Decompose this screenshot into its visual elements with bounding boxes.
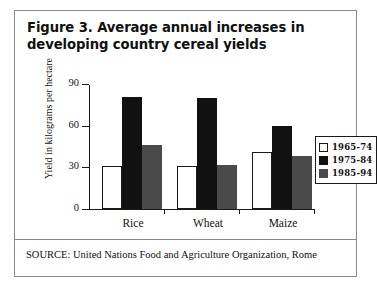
bar-group-maize: Maize [252, 84, 314, 209]
x-category-label-maize: Maize [243, 217, 323, 229]
y-tick-90: 90 [82, 84, 89, 85]
legend-label-1965-74: 1965-74 [332, 142, 372, 152]
bar-maize-1965-74 [252, 152, 272, 209]
y-axis-title: Yield in kilograms per hectare [43, 54, 54, 184]
source-note: SOURCE: United Nations Food and Agricult… [26, 249, 317, 260]
x-axis-line [89, 209, 315, 210]
x-tick-3 [314, 210, 315, 214]
legend-item-1985-94: 1985-94 [319, 167, 372, 179]
source-divider [15, 239, 356, 240]
x-category-label-wheat: Wheat [168, 217, 248, 229]
legend-label-1975-84: 1975-84 [332, 155, 372, 165]
bar-maize-1975-84 [272, 126, 292, 209]
bar-rice-1985-94 [142, 145, 162, 209]
bar-wheat-1985-94 [217, 165, 237, 209]
y-tick-label-30: 30 [69, 160, 80, 171]
figure-title-line-2: developing country cereal yields [27, 36, 327, 53]
chart-plot-region: Yield in kilograms per hectare 0 30 60 9… [27, 73, 345, 233]
plot-inner-area: 0 30 60 90 Rice [89, 85, 315, 210]
y-axis-line [89, 85, 90, 210]
bar-wheat-1965-74 [177, 166, 197, 209]
bar-rice-1965-74 [102, 166, 122, 209]
y-tick-label-60: 60 [69, 119, 80, 130]
y-tick-label-90: 90 [69, 77, 80, 88]
legend-swatch-icon-1965-74 [319, 143, 328, 152]
y-tick-0: 0 [82, 209, 89, 210]
figure-title: Figure 3. Average annual increases in de… [27, 19, 327, 53]
bar-rice-1975-84 [122, 97, 142, 210]
bar-group-rice: Rice [102, 84, 164, 209]
chart-legend: 1965-74 1975-84 1985-94 [315, 136, 377, 184]
x-tick-1 [164, 210, 165, 214]
bar-maize-1985-94 [292, 156, 312, 209]
y-tick-60: 60 [82, 126, 89, 127]
x-category-label-rice: Rice [93, 217, 173, 229]
y-tick-label-0: 0 [74, 202, 79, 213]
bar-group-wheat: Wheat [177, 84, 239, 209]
figure-title-line-1: Figure 3. Average annual increases in [27, 19, 327, 36]
legend-swatch-icon-1985-94 [319, 169, 328, 178]
legend-item-1965-74: 1965-74 [319, 141, 372, 153]
y-tick-30: 30 [82, 167, 89, 168]
legend-item-1975-84: 1975-84 [319, 154, 372, 166]
legend-label-1985-94: 1985-94 [332, 168, 372, 178]
legend-swatch-icon-1975-84 [319, 156, 328, 165]
figure-frame: Figure 3. Average annual increases in de… [14, 10, 357, 277]
bar-wheat-1975-84 [197, 98, 217, 209]
x-tick-2 [239, 210, 240, 214]
